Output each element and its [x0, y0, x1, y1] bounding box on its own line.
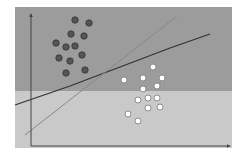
- light-data-point: [145, 95, 151, 101]
- lower-region: [15, 91, 232, 148]
- light-data-point: [145, 105, 151, 111]
- dark-data-point: [63, 44, 69, 50]
- dark-data-point: [72, 43, 78, 49]
- dark-data-point: [63, 70, 69, 76]
- dark-data-point: [79, 52, 85, 58]
- dark-data-point: [81, 33, 87, 39]
- dark-data-point: [56, 55, 62, 61]
- dark-data-point: [72, 17, 78, 23]
- diagram-canvas: [0, 0, 240, 157]
- dark-data-point: [68, 31, 74, 37]
- light-data-point: [150, 64, 156, 70]
- dark-data-point: [53, 40, 59, 46]
- light-data-point: [157, 104, 163, 110]
- light-data-point: [154, 83, 160, 89]
- dark-data-point: [82, 67, 88, 73]
- light-data-point: [154, 95, 160, 101]
- light-data-point: [125, 111, 131, 117]
- light-data-point: [121, 77, 127, 83]
- light-data-point: [140, 75, 146, 81]
- light-data-point: [135, 118, 141, 124]
- dark-data-point: [67, 58, 73, 64]
- dark-data-point: [86, 20, 92, 26]
- light-data-point: [159, 75, 165, 81]
- light-data-point: [140, 86, 146, 92]
- light-data-point: [135, 97, 141, 103]
